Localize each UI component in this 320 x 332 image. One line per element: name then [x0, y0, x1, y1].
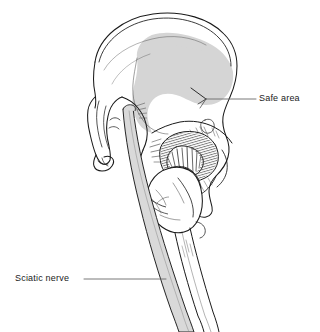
- anatomical-figure: Safe area Sciatic nerve: [0, 0, 320, 332]
- label-sciatic-nerve: Sciatic nerve: [15, 273, 69, 284]
- label-safe-area: Safe area: [259, 93, 300, 104]
